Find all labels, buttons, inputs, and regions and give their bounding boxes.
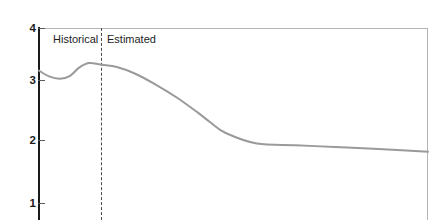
series-line-layer	[0, 0, 435, 220]
chart-figure: Number of covered workers declines over …	[0, 0, 435, 220]
covered-workers-line	[39, 63, 428, 152]
